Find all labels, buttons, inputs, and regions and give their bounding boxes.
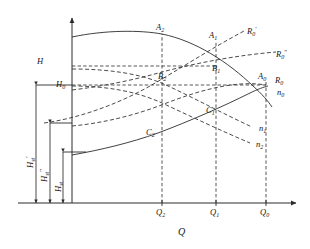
- label-A1: A1: [209, 31, 217, 40]
- label-H: H: [37, 57, 43, 66]
- label-R0-prime: R0′: [247, 27, 257, 36]
- label-n0: n0: [277, 88, 284, 97]
- label-Hst-doubleprime: Hst″: [40, 169, 49, 182]
- label-B1: B1: [212, 64, 220, 73]
- label-B2: B2: [158, 72, 166, 81]
- label-n2: n2: [256, 140, 263, 149]
- label-Hst: Hst: [54, 182, 63, 192]
- label-x-axis-Q: Q: [178, 226, 185, 237]
- label-A0: A0: [258, 72, 266, 81]
- label-Q1: Q1: [210, 208, 219, 217]
- label-R0-doubleprime: R0″: [276, 50, 287, 59]
- curve-n0: [72, 31, 272, 107]
- label-n1: n1: [259, 124, 266, 133]
- label-R0: R0: [275, 76, 283, 85]
- curve-R0-doubleprime: [72, 52, 276, 90]
- figure-canvas: H H0 A2 A1 A0 B2 B1 C2 C1 R0′ R0″ R0 n0 …: [0, 0, 310, 249]
- label-Hst-prime: Hst′: [26, 156, 35, 168]
- label-H0: H0: [56, 80, 65, 89]
- curve-n2: [72, 86, 250, 143]
- label-C1: C1: [206, 106, 215, 115]
- label-Q2: Q2: [156, 208, 165, 217]
- label-C2: C2: [146, 128, 155, 137]
- label-Q0: Q0: [260, 208, 269, 217]
- label-A2: A2: [156, 23, 164, 32]
